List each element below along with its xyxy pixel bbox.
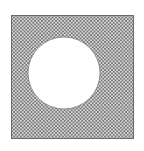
hatched-square-with-hole-diagram [0,0,144,151]
circular-hole [28,37,100,109]
